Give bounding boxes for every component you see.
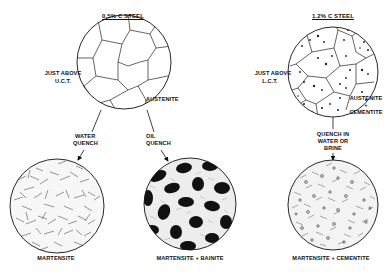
left-section-title: 0.5% C STEEL	[102, 13, 144, 20]
martensite-result-label: MARTENSITE	[37, 255, 74, 262]
right-condition-line2: L.C.T.	[262, 78, 278, 85]
oil-quench-line2: QUENCH	[146, 140, 171, 147]
water-quench-line1: WATER	[75, 133, 95, 140]
austenite-grains-circle	[77, 14, 172, 120]
left-condition-line2: U.C.T.	[55, 78, 71, 85]
right-section-title: 1.2% C STEEL	[312, 13, 354, 20]
martensite-cementite-circle	[288, 160, 378, 250]
right-phase-label-line3: CEMENTITE	[349, 109, 382, 116]
right-phase-label-line1: AUSTENITE	[350, 95, 383, 102]
water-quench-line2: QUENCH	[73, 140, 98, 147]
brine-quench-line2: WATER OR	[318, 138, 349, 145]
left-phase-label: AUSTENITE	[146, 96, 179, 103]
left-condition-line1: JUST ABOVE	[45, 70, 82, 77]
quench-arrows	[78, 110, 333, 161]
brine-quench-line3: BRINE	[324, 145, 342, 152]
right-condition-line1: JUST ABOVE	[255, 70, 292, 77]
right-phase-label-line2: +	[364, 102, 367, 109]
brine-quench-line1: QUENCH IN	[317, 131, 349, 138]
martensite-bainite-result-label: MARTENSITE + BAINITE	[156, 255, 223, 262]
martensite-bainite-circle	[143, 158, 236, 251]
martensite-cementite-result-label: MARTENSITE + CEMENTITE	[292, 255, 369, 262]
oil-quench-line1: OIL	[146, 133, 156, 140]
martensite-circle	[10, 159, 104, 254]
